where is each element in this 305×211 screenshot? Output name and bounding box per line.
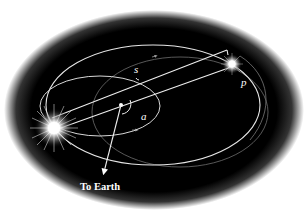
separation-label: s <box>134 63 138 75</box>
secondary-star <box>221 53 243 75</box>
position-angle-label: p <box>240 76 247 88</box>
binary-star-orbit-diagram: s p a To Earth <box>0 0 305 211</box>
to-earth-label: To Earth <box>80 181 120 192</box>
angle-label: a <box>141 110 147 122</box>
primary-star <box>30 104 78 152</box>
